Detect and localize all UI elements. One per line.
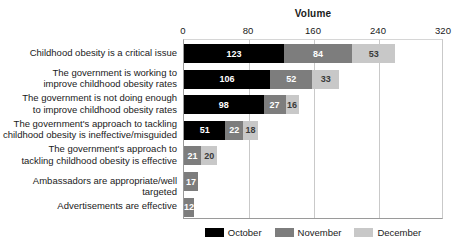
category-label: Advertisements are effective [1, 200, 177, 212]
category-label-line: The government's approach to [1, 143, 177, 155]
bar-segment: 52 [270, 70, 312, 89]
stacked-bar-chart: Volume 080160240320 12384531065233982716… [0, 0, 455, 248]
x-tick-label: 240 [370, 25, 386, 36]
bar-row: 1238453 [184, 44, 395, 63]
category-label-line: tackling childhood obesity is effective [1, 155, 177, 167]
bar-segment: 98 [184, 95, 264, 114]
bar-segment: 33 [312, 70, 339, 89]
chart-legend: OctoberNovemberDecember [183, 227, 443, 238]
legend-swatch-icon [275, 228, 294, 237]
category-label-line: The government is working to [1, 67, 177, 79]
x-axis-tick-labels: 080160240320 [0, 25, 455, 38]
category-label-line: improve childhood obesity rates [1, 78, 177, 90]
bar-value-label: 98 [219, 100, 229, 110]
x-tick-label: 0 [180, 25, 185, 36]
bar-value-label: 27 [270, 100, 280, 110]
bar-value-label: 16 [287, 100, 297, 110]
category-label: Ambassadors are appropriate/well targete… [1, 175, 177, 198]
category-label: The government is not doing enoughto imp… [1, 92, 177, 115]
bar-value-label: 106 [220, 74, 235, 84]
category-label-line: to improve childhood obesity rates [1, 104, 177, 116]
chart-axis-title: Volume [183, 8, 443, 19]
bar-value-label: 21 [188, 151, 198, 161]
category-label: The government's approach to tacklingchi… [1, 118, 177, 141]
bar-value-label: 52 [286, 74, 296, 84]
bar-segment: 53 [352, 44, 395, 63]
bar-segment: 27 [264, 95, 286, 114]
legend-label: December [377, 227, 421, 238]
bar-segment: 21 [184, 146, 201, 165]
x-tick-label: 320 [435, 25, 451, 36]
plot-area: 1238453106523398271651221821201712 [183, 39, 443, 219]
x-tick-label: 80 [243, 25, 254, 36]
bar-value-label: 51 [200, 125, 210, 135]
bar-segment: 106 [184, 70, 270, 89]
bar-row: 17 [184, 172, 198, 191]
legend-item: November [275, 227, 342, 238]
bar-value-label: 84 [313, 49, 323, 59]
category-label-line: Ambassadors are appropriate/well targete… [1, 175, 177, 198]
category-label-line: Advertisements are effective [1, 200, 177, 212]
legend-swatch-icon [354, 228, 373, 237]
bar-row: 12 [184, 198, 194, 217]
category-label: The government is working toimprove chil… [1, 67, 177, 90]
x-tick-label: 160 [305, 25, 321, 36]
category-label-line: The government is not doing enough [1, 92, 177, 104]
legend-label: October [228, 227, 262, 238]
bar-value-label: 22 [229, 125, 239, 135]
bar-segment: 18 [243, 121, 258, 140]
bar-value-label: 53 [369, 49, 379, 59]
bar-segment: 17 [184, 172, 198, 191]
bar-value-label: 123 [226, 49, 241, 59]
bar-segment: 84 [284, 44, 352, 63]
bar-value-label: 17 [186, 177, 196, 187]
bar-value-label: 12 [184, 202, 194, 212]
category-label: Childhood obesity is a critical issue [1, 47, 177, 59]
bar-value-label: 20 [204, 151, 214, 161]
bar-row: 982716 [184, 95, 299, 114]
bar-value-label: 33 [321, 74, 331, 84]
category-label-line: The government's approach to tackling [1, 118, 177, 130]
bar-row: 1065233 [184, 70, 339, 89]
legend-item: October [205, 227, 262, 238]
bar-row: 512218 [184, 121, 258, 140]
bar-segment: 20 [201, 146, 217, 165]
legend-item: December [354, 227, 421, 238]
bar-value-label: 18 [246, 125, 256, 135]
bar-segment: 123 [184, 44, 284, 63]
bar-segment: 22 [225, 121, 243, 140]
bar-segment: 16 [286, 95, 299, 114]
legend-swatch-icon [205, 228, 224, 237]
bar-rows: 1238453106523398271651221821201712 [184, 40, 442, 218]
bar-segment: 12 [184, 198, 194, 217]
bar-segment: 51 [184, 121, 225, 140]
bar-row: 2120 [184, 146, 217, 165]
category-label-line: childhood obesity is ineffective/misguid… [1, 129, 177, 141]
legend-label: November [298, 227, 342, 238]
category-axis-labels: Childhood obesity is a critical issueThe… [0, 39, 180, 219]
category-label: The government's approach totackling chi… [1, 143, 177, 166]
category-label-line: Childhood obesity is a critical issue [1, 47, 177, 59]
